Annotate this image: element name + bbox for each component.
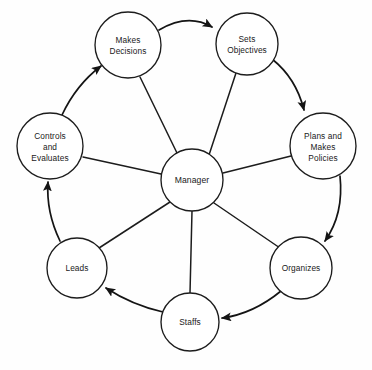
edge-organizes-to-staffs xyxy=(222,291,281,318)
node-controls-label-line3: Evaluates xyxy=(31,153,68,163)
node-manager[interactable]: Manager xyxy=(161,149,223,211)
node-plans-label-line2: Makes xyxy=(311,142,336,152)
node-plans-and-makes-policies[interactable]: Plans and Makes Policies xyxy=(290,113,356,179)
nodes-group: Makes Decisions Sets Objectives Plans an… xyxy=(17,12,356,351)
edge-controls-to-makes-decisions xyxy=(62,66,101,115)
node-leads[interactable]: Leads xyxy=(47,238,107,298)
node-makes-decisions-label-line2: Decisions xyxy=(110,46,147,56)
node-manager-label: Manager xyxy=(175,175,210,185)
node-leads-label: Leads xyxy=(65,263,88,273)
edge-plans-to-organizes xyxy=(325,176,341,241)
edge-sets-objectives-to-plans xyxy=(272,59,304,110)
node-plans-label-line1: Plans and xyxy=(304,131,342,141)
spoke-manager-plans xyxy=(223,156,291,173)
node-makes-decisions[interactable]: Makes Decisions xyxy=(95,12,161,78)
spoke-manager-controls xyxy=(83,157,161,174)
spoke-manager-organizes xyxy=(214,203,280,248)
node-staffs-label: Staffs xyxy=(179,317,201,327)
spoke-manager-staffs xyxy=(190,211,192,293)
node-controls-label-line1: Controls xyxy=(34,131,66,141)
node-sets-objectives-label-line2: Objectives xyxy=(227,45,267,55)
edge-makes-decisions-to-sets-objectives xyxy=(159,21,212,30)
edge-leads-to-controls xyxy=(48,182,60,241)
node-controls-and-evaluates[interactable]: Controls and Evaluates xyxy=(17,113,83,179)
spoke-manager-leads xyxy=(99,202,170,248)
management-cycle-diagram: Makes Decisions Sets Objectives Plans an… xyxy=(0,0,372,370)
node-sets-objectives-label-line1: Sets xyxy=(238,34,255,44)
node-staffs[interactable]: Staffs xyxy=(161,293,219,351)
spoke-manager-makes-decisions xyxy=(140,77,177,153)
node-makes-decisions-label-line1: Makes xyxy=(116,35,141,45)
edge-staffs-to-leads xyxy=(106,288,163,312)
node-controls-label-line2: and xyxy=(43,142,57,152)
node-plans-label-line3: Policies xyxy=(308,153,337,163)
node-sets-objectives[interactable]: Sets Objectives xyxy=(216,13,278,75)
node-sets-objectives-circle[interactable] xyxy=(216,13,278,75)
diagram-canvas: Makes Decisions Sets Objectives Plans an… xyxy=(0,0,372,370)
node-organizes-label: Organizes xyxy=(282,263,321,273)
spoke-manager-sets-objectives xyxy=(209,73,236,155)
node-makes-decisions-circle[interactable] xyxy=(95,12,161,78)
node-organizes[interactable]: Organizes xyxy=(270,237,332,299)
